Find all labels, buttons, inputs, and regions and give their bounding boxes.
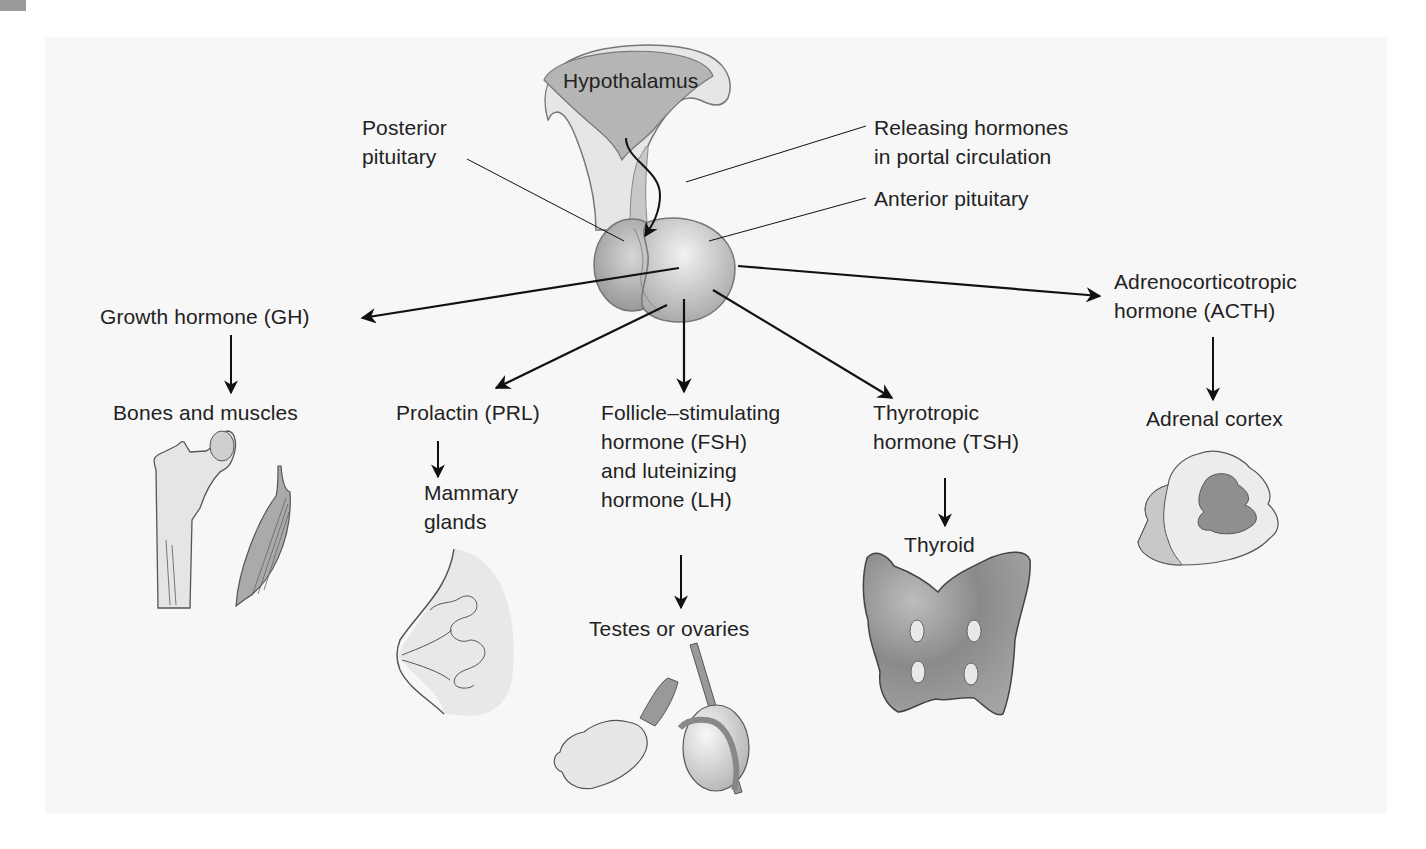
releasing-hormones-label: Releasing hormones in portal circulation — [874, 113, 1068, 171]
fsh-line-3: and luteinizing — [601, 456, 780, 485]
mammary-line-2: glands — [424, 507, 518, 536]
hypothalamus-label: Hypothalamus — [563, 66, 698, 95]
mammary-line-1: Mammary — [424, 478, 518, 507]
tsh-line-1: Thyrotropic — [873, 398, 1019, 427]
mammary-glands-label: Mammary glands — [424, 478, 518, 536]
gh-label: Growth hormone (GH) — [100, 302, 310, 331]
mammary-gland-illustration — [397, 549, 514, 716]
fsh-line-2: hormone (FSH) — [601, 427, 780, 456]
bone-illustration — [154, 431, 235, 608]
acth-label: Adrenocorticotropic hormone (ACTH) — [1114, 267, 1297, 325]
acth-line-1: Adrenocorticotropic — [1114, 267, 1297, 296]
releasing-hormones-leader — [686, 126, 866, 182]
posterior-pituitary-line-1: Posterior — [362, 113, 447, 142]
prl-label: Prolactin (PRL) — [396, 398, 540, 427]
anterior-pituitary-leader — [709, 198, 866, 241]
testis-illustration — [680, 643, 749, 794]
releasing-hormones-line-2: in portal circulation — [874, 142, 1068, 171]
fsh-lh-label: Follicle–stimulating hormone (FSH) and l… — [601, 398, 780, 514]
testes-ovaries-label: Testes or ovaries — [589, 614, 749, 643]
ovary-illustration — [554, 678, 678, 789]
posterior-pituitary-line-2: pituitary — [362, 142, 447, 171]
tsh-label: Thyrotropic hormone (TSH) — [873, 398, 1019, 456]
adrenal-cortex-label: Adrenal cortex — [1146, 404, 1283, 433]
thyroid-illustration — [863, 552, 1030, 715]
adrenal-cortex-illustration — [1138, 451, 1278, 565]
acth-arrow — [738, 266, 1100, 296]
releasing-hormones-line-1: Releasing hormones — [874, 113, 1068, 142]
thyroid-label: Thyroid — [904, 530, 975, 559]
acth-line-2: hormone (ACTH) — [1114, 296, 1297, 325]
prl-arrow — [496, 305, 667, 388]
muscle-illustration — [236, 466, 290, 606]
posterior-pituitary-label: Posterior pituitary — [362, 113, 447, 171]
tsh-line-2: hormone (TSH) — [873, 427, 1019, 456]
fsh-line-4: hormone (LH) — [601, 485, 780, 514]
bones-muscles-label: Bones and muscles — [113, 398, 298, 427]
anterior-pituitary-label: Anterior pituitary — [874, 184, 1029, 213]
fsh-line-1: Follicle–stimulating — [601, 398, 780, 427]
tsh-arrow — [713, 290, 892, 398]
